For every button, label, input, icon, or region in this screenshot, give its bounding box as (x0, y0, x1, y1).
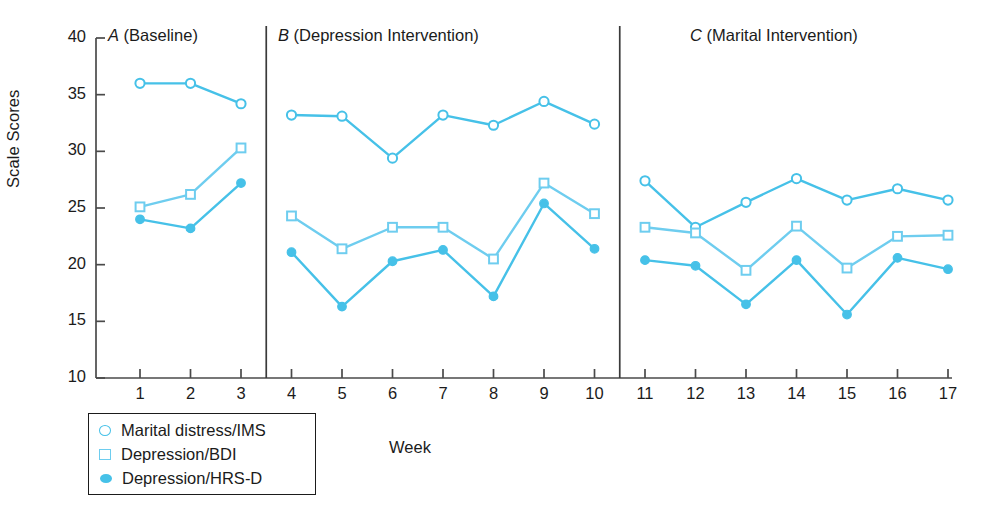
x-axis-tick-label: 10 (571, 384, 619, 403)
chart-figure: Scale Scores 101520253035401234567891011… (0, 0, 989, 524)
y-axis-tick-label: 40 (42, 27, 86, 46)
y-axis-tick-label: 25 (42, 197, 86, 216)
legend-item-depression-hrsd: Depression/HRS-D (99, 466, 262, 490)
phase-letter: C (690, 26, 702, 44)
x-axis-tick-label: 15 (823, 384, 871, 403)
x-axis-tick-label: 6 (369, 384, 417, 403)
x-axis-tick-label: 9 (520, 384, 568, 403)
phase-title-b: B (Depression Intervention) (278, 26, 479, 45)
phase-letter: A (108, 26, 119, 44)
phase-title-a: A (Baseline) (108, 26, 198, 45)
x-axis-tick-label: 8 (470, 384, 518, 403)
x-axis-tick-label: 1 (116, 384, 164, 403)
x-axis-tick-label: 2 (167, 384, 215, 403)
x-axis-title: Week (355, 438, 465, 457)
legend-item-marital-distress-ims: Marital distress/IMS (99, 418, 266, 442)
x-axis-tick-label: 5 (318, 384, 366, 403)
open-square-icon (99, 449, 111, 460)
legend-item-depression-bdi: Depression/BDI (99, 442, 237, 466)
phase-title-c: C (Marital Intervention) (690, 26, 858, 45)
y-axis-tick-label: 15 (42, 310, 86, 329)
phase-description: (Marital Intervention) (702, 26, 858, 44)
x-axis-tick-label: 13 (722, 384, 770, 403)
legend-label: Marital distress/IMS (121, 421, 266, 440)
x-axis-tick-label: 17 (924, 384, 972, 403)
legend-label: Depression/BDI (121, 445, 237, 464)
x-axis-tick-label: 12 (672, 384, 720, 403)
x-axis-tick-label: 4 (268, 384, 316, 403)
x-axis-tick-label: 11 (621, 384, 669, 403)
open-circle-icon (99, 425, 111, 436)
y-axis-tick-label: 20 (42, 254, 86, 273)
y-axis-tick-label: 30 (42, 140, 86, 159)
filled-circle-icon (100, 474, 112, 483)
phase-letter: B (278, 26, 289, 44)
phase-description: (Baseline) (119, 26, 198, 44)
x-axis-tick-label: 7 (419, 384, 467, 403)
legend-label: Depression/HRS-D (122, 469, 262, 488)
x-axis-tick-label: 16 (874, 384, 922, 403)
legend: Marital distress/IMS Depression/BDI Depr… (88, 413, 316, 495)
x-axis-tick-label: 3 (217, 384, 265, 403)
y-axis-tick-label: 35 (42, 84, 86, 103)
y-axis-tick-label: 10 (42, 367, 86, 386)
x-axis-tick-label: 14 (773, 384, 821, 403)
phase-description: (Depression Intervention) (289, 26, 479, 44)
